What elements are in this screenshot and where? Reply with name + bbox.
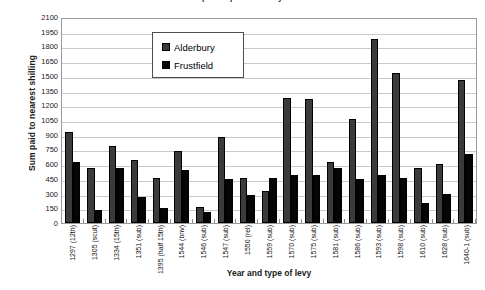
y-tick-label: 750 — [28, 146, 58, 154]
bar-alderbury — [305, 99, 313, 223]
bar-frustfield — [204, 212, 212, 223]
bar-frustfield — [334, 168, 342, 223]
bar-frustfield — [116, 168, 124, 223]
bar-group — [127, 19, 149, 223]
bar-group — [62, 19, 84, 223]
y-tick-label: 600 — [28, 161, 58, 169]
x-tick-cell: 1351 (sub) — [127, 225, 149, 267]
bar-alderbury — [65, 132, 73, 223]
y-tick-label: 1200 — [28, 102, 58, 110]
y-tick-label: 1650 — [28, 58, 58, 66]
x-tick-cell: 1550 (rel) — [236, 225, 258, 267]
x-tick-cell: 1593 (sub) — [367, 225, 389, 267]
bar-group — [324, 19, 346, 223]
bar-frustfield — [138, 197, 146, 223]
bar-alderbury — [87, 168, 95, 223]
bar-frustfield — [247, 195, 255, 223]
bar-group — [345, 19, 367, 223]
bar-frustfield — [160, 208, 168, 223]
bar-alderbury — [283, 98, 291, 223]
x-tick-cell: 1581 (sub) — [324, 225, 346, 267]
y-tick-label: 1050 — [28, 117, 58, 125]
x-tick-label: 1575 (sub) — [309, 225, 316, 258]
bar-group — [302, 19, 324, 223]
bar-frustfield — [95, 210, 103, 223]
bar-group — [258, 19, 280, 223]
x-tick-label: 1598 (sub) — [397, 225, 404, 258]
x-tick-cell: 1586 (sub) — [346, 225, 368, 267]
legend-item-alderbury: Alderbury — [162, 38, 243, 56]
bar-frustfield — [400, 178, 408, 223]
bar-group — [411, 19, 433, 223]
x-tick-cell: 1544 (bnv) — [170, 225, 192, 267]
x-tick-label: 1586 (sub) — [353, 225, 360, 258]
bar-alderbury — [131, 160, 139, 223]
x-axis-tick-labels: 1297 (12th)1305 (scut)1334 (15th)1351 (s… — [61, 225, 477, 267]
bar-group — [389, 19, 411, 223]
legend-label-frustfield: Frustfield — [174, 60, 213, 71]
x-tick-cell: 1598 (sub) — [389, 225, 411, 267]
bar-chart: Sums paid in parliamentary levies Sum pa… — [0, 0, 485, 290]
x-tick-label: 1550 (rel) — [244, 225, 251, 255]
bar-alderbury — [109, 146, 117, 223]
y-tick-label: 1350 — [28, 88, 58, 96]
x-tick-label: 1581 (sub) — [331, 225, 338, 258]
x-tick-cell: 1559 (sub) — [258, 225, 280, 267]
bar-frustfield — [182, 170, 190, 223]
bar-alderbury — [240, 178, 248, 223]
x-tick-cell: 1546 (sub) — [192, 225, 214, 267]
y-tick-label: 2100 — [28, 14, 58, 22]
bar-frustfield — [422, 203, 430, 223]
legend-swatch-icon-frustfield — [162, 61, 170, 69]
x-tick-label: 1610 (sub) — [419, 225, 426, 258]
bar-frustfield — [291, 175, 299, 223]
x-tick-cell: 1640-1 (sub) — [455, 225, 477, 267]
bar-alderbury — [436, 164, 444, 223]
bar-frustfield — [465, 154, 473, 223]
x-tick-label: 1547 (sub) — [222, 225, 229, 258]
legend-item-frustfield: Frustfield — [162, 56, 243, 74]
bar-frustfield — [225, 179, 233, 223]
x-tick-label: 1544 (bnv) — [178, 225, 185, 258]
bar-frustfield — [313, 175, 321, 223]
bar-alderbury — [349, 119, 357, 223]
bar-alderbury — [458, 80, 466, 223]
bar-alderbury — [196, 207, 204, 223]
y-tick-label: 450 — [28, 176, 58, 184]
x-tick-cell: 1395 (half 15th) — [149, 225, 171, 267]
bar-frustfield — [378, 175, 386, 223]
y-tick-label: 1800 — [28, 43, 58, 51]
bar-alderbury — [174, 151, 182, 223]
bar-frustfield — [356, 179, 364, 223]
chart-title: Sums paid in parliamentary levies — [0, 0, 485, 2]
bar-alderbury — [392, 73, 400, 223]
bar-group — [367, 19, 389, 223]
x-tick-label: 1570 (sub) — [287, 225, 294, 258]
bar-alderbury — [218, 137, 226, 223]
y-axis-tick-labels: 2100195018001650150013501200105090075060… — [28, 14, 58, 226]
bar-alderbury — [414, 168, 422, 223]
bar-group — [106, 19, 128, 223]
x-tick-cell: 1570 (sub) — [280, 225, 302, 267]
bar-alderbury — [371, 39, 379, 223]
x-tick-label: 1334 (15th) — [112, 225, 119, 261]
x-tick-label: 1351 (sub) — [134, 225, 141, 258]
legend-swatch-icon-alderbury — [162, 43, 170, 51]
x-tick-cell: 1610 (sub) — [411, 225, 433, 267]
y-tick-label: 1500 — [28, 73, 58, 81]
y-tick-label: 900 — [28, 132, 58, 140]
plot-area — [61, 18, 477, 224]
y-tick-label: 1950 — [28, 29, 58, 37]
bar-group — [84, 19, 106, 223]
bar-alderbury — [262, 191, 270, 223]
bar-alderbury — [327, 162, 335, 223]
x-tick-label: 1305 (scut) — [90, 225, 97, 260]
legend-label-alderbury: Alderbury — [174, 42, 215, 53]
bar-frustfield — [269, 178, 277, 223]
x-tick-cell: 1334 (15th) — [105, 225, 127, 267]
x-tick-label: 1395 (half 15th) — [156, 225, 163, 274]
y-tick-label: 150 — [28, 205, 58, 213]
chart-title-strip: Sums paid in parliamentary levies — [0, 0, 485, 9]
x-tick-label: 1593 (sub) — [375, 225, 382, 258]
x-tick-label: 1640-1 (sub) — [462, 225, 469, 265]
